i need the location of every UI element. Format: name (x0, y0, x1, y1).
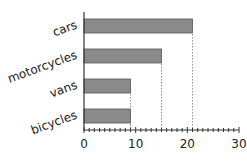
bars (84, 19, 193, 123)
category-label-vans: vans (48, 78, 79, 101)
tick-label-10: 10 (128, 137, 143, 151)
tick-label-0: 0 (80, 137, 88, 151)
tick-label-30: 30 (231, 137, 246, 151)
bar-vans (84, 79, 131, 93)
tick-label-20: 20 (180, 137, 195, 151)
x-axis-tick-labels: 0102030 (80, 137, 246, 151)
category-label-cars: cars (51, 18, 79, 40)
category-labels: carsmotorcyclesvansbicycles (6, 18, 79, 138)
dotted-guide-lines (131, 19, 193, 130)
category-label-bicycles: bicycles (29, 108, 79, 138)
bar-chart: 0102030 carsmotorcyclesvansbicycles (0, 0, 247, 163)
bar-bicycles (84, 109, 131, 123)
bar-motorcycles (84, 49, 162, 63)
bar-cars (84, 19, 193, 33)
